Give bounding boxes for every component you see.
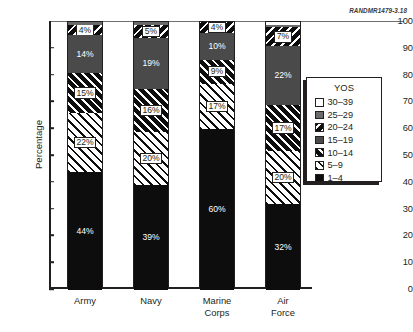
legend-items: 30–3925–2920–2415–1910–145–91–4 (307, 96, 381, 184)
bar-segment: 39% (134, 185, 168, 290)
legend-item[interactable]: 10–14 (307, 146, 381, 159)
segment-value-label: 15% (74, 87, 96, 99)
segment-value-label: 5% (142, 26, 159, 38)
y-tick-mark (49, 261, 54, 263)
bar-segment: 5% (134, 25, 168, 38)
segment-value-label: 32% (273, 242, 292, 252)
y-tick-label: 0 (367, 284, 413, 294)
legend-box: YOS 30–3925–2920–2415–1910–145–91–4 (306, 77, 382, 182)
bar-segment: 20% (266, 151, 300, 205)
legend-item[interactable]: 5–9 (307, 159, 381, 172)
bar-segment: 17% (200, 84, 234, 130)
segment-value-label: 17% (272, 122, 294, 134)
legend-item[interactable]: 25–29 (307, 109, 381, 122)
bar-air-force[interactable]: 7%22%17%20%32% (265, 21, 301, 289)
segment-value-label: 4% (208, 22, 225, 33)
bar-segment: 14% (68, 35, 102, 73)
legend-item-label: 15–19 (328, 135, 354, 145)
segment-value-label: 7% (274, 31, 291, 43)
bar-segment: 9% (200, 60, 234, 84)
y-tick-mark (49, 235, 54, 237)
bar-segment: 10% (200, 33, 234, 60)
segment-value-label: 60% (207, 205, 226, 215)
legend-swatch-icon (315, 161, 324, 170)
y-tick-mark (49, 127, 54, 129)
segment-value-label: 44% (75, 226, 94, 236)
bar-segment: 15% (68, 73, 102, 113)
legend-item-label: 10–14 (328, 148, 354, 158)
x-axis-label: Navy (116, 295, 186, 307)
y-tick-mark (49, 154, 54, 156)
bar-segment: 22% (68, 113, 102, 172)
legend-swatch-icon (315, 111, 324, 120)
y-tick-label: 10 (367, 257, 413, 267)
segment-value-label: 16% (140, 105, 162, 117)
legend-swatch-icon (315, 123, 324, 132)
figure-code-label: RANDMR1479-3.18 (349, 7, 407, 14)
bar-segment: 16% (134, 89, 168, 132)
segment-value-label: 17% (206, 101, 228, 113)
bar-segment: 44% (68, 172, 102, 290)
segment-value-label: 9% (208, 66, 225, 78)
legend-item-label: 30–39 (328, 97, 354, 107)
bar-segment: 4% (68, 25, 102, 36)
x-axis-label: Army (50, 295, 120, 307)
legend-title: YOS (307, 82, 381, 93)
legend-swatch-icon (315, 98, 324, 107)
legend-item-label: 5–9 (328, 160, 343, 170)
legend-swatch-icon (315, 174, 324, 183)
bar-segment: 60% (200, 129, 234, 290)
y-tick-mark (49, 208, 54, 210)
x-axis-label: AirForce (248, 295, 318, 318)
bar-segment: 4% (200, 22, 234, 33)
segment-value-label: 39% (141, 233, 160, 243)
legend-item[interactable]: 30–39 (307, 96, 381, 109)
y-axis-title: Percentage (33, 85, 44, 205)
legend-item-label: 20–24 (328, 122, 354, 132)
segment-value-label: 14% (75, 49, 94, 59)
bar-segment: 32% (266, 204, 300, 290)
y-tick-mark (49, 288, 54, 290)
bar-segment: 20% (134, 132, 168, 186)
segment-value-label: 22% (74, 137, 96, 149)
x-axis-label: MarineCorps (182, 295, 252, 318)
y-tick-mark (49, 74, 54, 76)
x-axis-label-line: Force (248, 307, 318, 319)
legend-item-label: 1–4 (328, 173, 343, 183)
x-axis-label-line: Air (248, 295, 318, 307)
legend-item[interactable]: 20–24 (307, 121, 381, 134)
legend-item[interactable]: 15–19 (307, 134, 381, 147)
y-tick-mark (49, 181, 54, 183)
x-axis-label-line: Marine (182, 295, 252, 307)
y-tick-mark (49, 47, 54, 49)
x-axis-label-line: Army (50, 295, 120, 307)
legend-item[interactable]: 1–4 (307, 172, 381, 185)
segment-value-label: 4% (76, 25, 93, 36)
bar-segment: 17% (266, 105, 300, 151)
x-axis-label-line: Corps (182, 307, 252, 319)
segment-value-label: 20% (140, 153, 162, 165)
y-tick-label: 30 (367, 204, 413, 214)
bar-army[interactable]: 4%14%15%22%44% (67, 21, 103, 289)
bar-marine-corps[interactable]: 4%10%9%17%60% (199, 21, 235, 289)
legend-item-label: 25–29 (328, 110, 354, 120)
segment-value-label: 10% (207, 41, 226, 51)
bar-navy[interactable]: 5%19%16%20%39% (133, 21, 169, 289)
segment-value-label: 19% (141, 59, 160, 69)
segment-value-label: 20% (272, 172, 294, 184)
figure-canvas: RANDMR1479-3.18 Percentage 1009080706050… (0, 0, 413, 332)
y-tick-label: 20 (367, 230, 413, 240)
legend-swatch-icon (315, 136, 324, 145)
y-tick-label: 90 (367, 43, 413, 53)
bar-segment: 7% (266, 27, 300, 46)
legend-swatch-icon (315, 148, 324, 157)
x-axis-label-line: Navy (116, 295, 186, 307)
segment-value-label: 22% (273, 71, 292, 81)
bar-segment: 19% (134, 38, 168, 89)
bar-segment: 22% (266, 46, 300, 105)
y-tick-mark (49, 101, 54, 103)
y-tick-label: 100 (367, 16, 413, 26)
